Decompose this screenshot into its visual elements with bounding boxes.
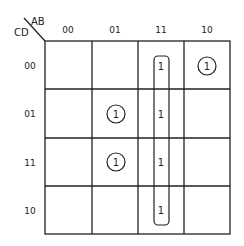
cell-value: 1 (158, 205, 164, 216)
cell-value: 1 (158, 157, 164, 168)
column-header: 00 (62, 25, 74, 35)
ab-label: AB (31, 16, 45, 27)
cell-value: 1 (158, 61, 164, 72)
row-header: 10 (24, 206, 36, 216)
column-header: 11 (155, 25, 166, 35)
cd-label: CD (14, 27, 29, 38)
cell-value: 1 (113, 157, 119, 168)
column-11-group-loop (154, 56, 169, 225)
column-header: 10 (201, 25, 213, 35)
cell-value: 1 (113, 109, 119, 120)
karnaugh-map: AB CD 00 01 11 10 00 01 11 10 1 1 1 1 1 … (0, 0, 244, 246)
row-header: 00 (24, 61, 36, 71)
cell-value: 1 (204, 61, 210, 72)
cell-value: 1 (158, 109, 164, 120)
row-header: 01 (24, 109, 35, 119)
row-header: 11 (24, 158, 35, 168)
grid (45, 41, 230, 234)
column-header: 01 (109, 25, 120, 35)
